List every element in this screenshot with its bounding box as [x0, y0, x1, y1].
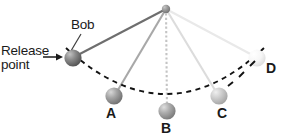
bob-ball-position-c: [210, 87, 227, 104]
position-c-label: C: [217, 106, 227, 121]
position-a-label: A: [106, 106, 116, 121]
pivot-point: [162, 5, 170, 13]
release-point-label-line2: point: [1, 57, 29, 72]
string-to-position-b: [166, 9, 167, 110]
position-b-label: B: [161, 121, 171, 136]
bob-ball-position-b: [158, 102, 175, 119]
bob-ball-position-a: [105, 87, 122, 104]
bob-leader-line: [72, 34, 82, 50]
swing-path-arc: [66, 48, 264, 94]
bob-ball-release-point: [64, 49, 81, 66]
release-point-arrow-head: [56, 54, 63, 61]
release-point-label: Releasepoint: [1, 44, 49, 72]
position-d-label: D: [266, 61, 276, 76]
pendulum-diagram: Releasepoint Bob A B C D: [0, 0, 281, 138]
bob-label: Bob: [71, 18, 94, 32]
release-point-label-line1: Release: [1, 43, 49, 58]
